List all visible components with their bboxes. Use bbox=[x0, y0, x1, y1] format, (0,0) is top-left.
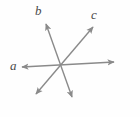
line-label-b: b bbox=[35, 4, 42, 17]
geometry-figure: a b c bbox=[0, 0, 140, 117]
intersecting-lines-diagram bbox=[0, 0, 140, 117]
line-label-a: a bbox=[10, 59, 17, 72]
figure-background bbox=[0, 0, 140, 117]
line-label-c: c bbox=[91, 8, 97, 21]
